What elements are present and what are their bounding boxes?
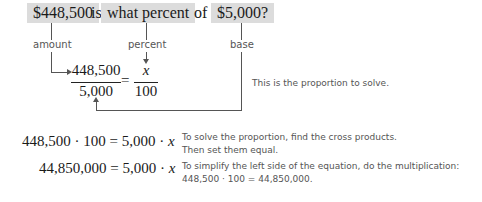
- proportion-equals: =: [121, 72, 129, 89]
- step2-note-line2: 448,500 · 100 = 44,850,000.: [182, 173, 313, 186]
- fraction-left-numerator: 448,500: [71, 62, 121, 79]
- step2-rhs: 5,000 ·: [122, 160, 165, 176]
- percent-connector-top: [146, 23, 147, 40]
- base-connector-down: [241, 52, 242, 110]
- step1-equation: 448,500 · 100 = 5,000 · x: [22, 133, 175, 150]
- proportion-note: This is the proportion to solve.: [252, 77, 389, 90]
- step1-equals: =: [110, 133, 118, 149]
- amount-connector-top: [51, 23, 52, 40]
- base-connector-horizontal: [96, 110, 242, 111]
- step1-variable: x: [168, 133, 175, 149]
- step2-equation: 44,850,000 = 5,000 · x: [39, 160, 175, 177]
- step1-lhs: 448,500 · 100: [22, 133, 106, 149]
- step2-lhs: 44,850,000: [39, 160, 107, 176]
- amount-connector-bottom: [51, 52, 52, 72]
- fraction-right-numerator: x: [134, 62, 158, 79]
- step1-rhs: 5,000 ·: [122, 133, 165, 149]
- amount-box: $448,500: [27, 3, 99, 23]
- base-connector-up: [96, 102, 97, 110]
- amount-connector-horizontal: [51, 72, 68, 73]
- percent-label: percent: [128, 39, 166, 50]
- step2-variable: x: [169, 160, 176, 176]
- percent-box: what percent: [101, 3, 195, 23]
- fraction-right-denominator: 100: [134, 83, 158, 100]
- of-word: of: [194, 3, 207, 23]
- fraction-left-denominator: 5,000: [71, 83, 121, 100]
- amount-label: amount: [33, 39, 72, 50]
- step1-note-line1: To solve the proportion, find the cross …: [182, 131, 397, 144]
- base-box: $5,000?: [211, 3, 274, 23]
- base-label: base: [230, 39, 254, 50]
- base-connector-top: [241, 23, 242, 40]
- step1-note-line2: Then set them equal.: [182, 144, 278, 157]
- step2-equals: =: [110, 160, 118, 176]
- step2-note-line1: To simplify the left side of the equatio…: [182, 160, 459, 173]
